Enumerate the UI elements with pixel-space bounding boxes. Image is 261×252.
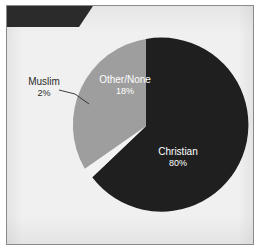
pie-chart: Christian 80% Other/None 18% Muslim 2% xyxy=(7,6,253,244)
pie-chart-svg xyxy=(7,6,253,244)
pie-label-muslim-value: 2% xyxy=(13,88,75,99)
pie-label-other-none: Other/None 18% xyxy=(83,74,167,96)
pie-label-other-none-name: Other/None xyxy=(83,74,167,86)
pie-label-muslim: Muslim 2% xyxy=(13,76,75,98)
pie-label-other-none-value: 18% xyxy=(83,86,167,97)
pie-label-christian-value: 80% xyxy=(135,158,221,169)
chart-panel: RELIGIONS Christian 80% Other/None 18% xyxy=(6,5,254,245)
panel-title-tab xyxy=(7,6,93,27)
pie-label-christian-name: Christian xyxy=(135,146,221,158)
religions-pie-figure: RELIGIONS Christian 80% Other/None 18% xyxy=(0,0,261,252)
pie-label-muslim-name: Muslim xyxy=(13,76,75,88)
pie-label-christian: Christian 80% xyxy=(135,146,221,168)
